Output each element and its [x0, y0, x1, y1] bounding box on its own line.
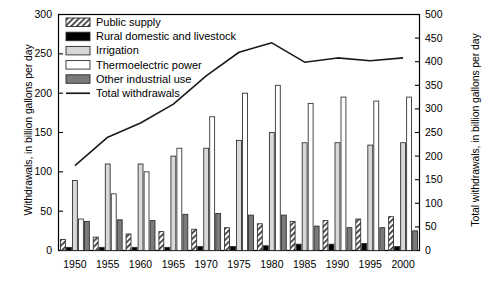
y-tick-left-200: 200 — [18, 88, 52, 99]
y-tick-left-250: 250 — [18, 48, 52, 59]
y-tick-left-100: 100 — [18, 166, 52, 177]
bar-1995-thermoelectric-power — [374, 101, 379, 250]
y-tick-left-300: 300 — [18, 9, 52, 20]
bar-1990-other-industrial-use — [347, 228, 352, 251]
bar-1980-other-industrial-use — [281, 215, 286, 250]
y-tick-left-0: 0 — [18, 245, 52, 256]
bar-1975-public-supply — [225, 228, 230, 251]
bar-1965-thermoelectric-power — [177, 148, 182, 250]
bar-1990-thermoelectric-power — [341, 97, 346, 250]
bar-1980-irrigation — [269, 133, 274, 251]
legend-label-rural-domestic-and-livestock: Rural domestic and livestock — [96, 31, 236, 42]
bar-1975-irrigation — [237, 140, 242, 250]
bar-1960-other-industrial-use — [150, 221, 155, 251]
legend-label-thermoelectric-power: Thermoelectric power — [96, 60, 202, 71]
bar-2000-other-industrial-use — [413, 231, 418, 251]
y-tick-left-50: 50 — [18, 206, 52, 217]
bar-1995-irrigation — [368, 145, 373, 250]
bar-1955-irrigation — [105, 164, 110, 251]
bar-1980-thermoelectric-power — [275, 85, 280, 250]
bar-1960-rural-domestic-and-livestock — [132, 247, 137, 250]
bar-1950-public-supply — [60, 239, 65, 250]
right-axis-ticks — [415, 15, 420, 251]
bar-1950-other-industrial-use — [84, 221, 89, 250]
bar-2000-public-supply — [389, 217, 394, 251]
legend-label-public-supply: Public supply — [96, 17, 161, 28]
bars-layer — [60, 85, 417, 250]
bar-1950-irrigation — [72, 180, 77, 250]
y-tick-right-400: 400 — [425, 56, 459, 67]
bar-1975-other-industrial-use — [249, 215, 254, 250]
y-tick-right-0: 0 — [425, 245, 459, 256]
bar-1980-rural-domestic-and-livestock — [263, 246, 268, 251]
y-tick-right-500: 500 — [425, 9, 459, 20]
x-tick-2000: 2000 — [383, 259, 423, 270]
legend-swatch-irrigation — [66, 46, 90, 55]
bar-1965-rural-domestic-and-livestock — [165, 247, 170, 250]
legend-label-irrigation: Irrigation — [96, 45, 139, 56]
bar-1955-thermoelectric-power — [111, 194, 116, 251]
bar-2000-irrigation — [401, 143, 406, 251]
legend-swatches — [66, 18, 90, 93]
bar-1975-rural-domestic-and-livestock — [231, 247, 236, 251]
bar-1950-thermoelectric-power — [78, 219, 83, 250]
y-tick-right-300: 300 — [425, 103, 459, 114]
bar-1975-thermoelectric-power — [243, 93, 248, 250]
y-tick-right-350: 350 — [425, 80, 459, 91]
bar-1970-public-supply — [192, 229, 197, 250]
bar-1970-irrigation — [204, 148, 209, 250]
bar-1955-other-industrial-use — [117, 220, 122, 251]
bar-1985-thermoelectric-power — [308, 103, 313, 250]
y-tick-right-250: 250 — [425, 127, 459, 138]
legend-label-total-withdrawals: Total withdrawals — [96, 88, 180, 99]
left-axis-ticks — [59, 15, 64, 251]
bar-1950-rural-domestic-and-livestock — [66, 247, 71, 250]
bar-1985-other-industrial-use — [314, 226, 319, 250]
bar-1965-other-industrial-use — [183, 214, 188, 250]
bar-1990-public-supply — [323, 221, 328, 251]
legend-swatch-thermoelectric-power — [66, 61, 90, 70]
y-axis-label-right: Total withdrawals, in billion gallons pe… — [469, 10, 481, 250]
legend-swatch-public-supply — [66, 18, 90, 27]
bar-1995-rural-domestic-and-livestock — [362, 243, 367, 250]
y-tick-right-50: 50 — [425, 221, 459, 232]
bar-1970-other-industrial-use — [216, 214, 221, 251]
bar-1960-thermoelectric-power — [144, 172, 149, 251]
bar-1960-irrigation — [138, 164, 143, 251]
y-tick-right-450: 450 — [425, 33, 459, 44]
bar-1955-public-supply — [93, 237, 98, 250]
bar-1980-public-supply — [257, 224, 262, 251]
bar-1965-public-supply — [159, 232, 164, 251]
bar-1985-irrigation — [302, 143, 307, 251]
bar-1970-thermoelectric-power — [210, 117, 215, 251]
bar-1995-public-supply — [356, 219, 361, 250]
legend-swatch-rural-domestic-and-livestock — [66, 32, 90, 41]
legend-label-other-industrial-use: Other industrial use — [96, 74, 191, 85]
bar-2000-rural-domestic-and-livestock — [395, 247, 400, 251]
bar-1990-irrigation — [335, 143, 340, 251]
chart-canvas — [0, 0, 497, 285]
y-tick-right-150: 150 — [425, 174, 459, 185]
y-tick-left-150: 150 — [18, 127, 52, 138]
bar-1985-rural-domestic-and-livestock — [296, 244, 301, 250]
bar-2000-thermoelectric-power — [407, 97, 412, 250]
bar-1965-irrigation — [171, 156, 176, 250]
bar-1970-rural-domestic-and-livestock — [198, 247, 203, 251]
y-tick-right-100: 100 — [425, 198, 459, 209]
chart-container: Withdrawals, in billion gallons per day … — [0, 0, 497, 285]
y-tick-right-200: 200 — [425, 151, 459, 162]
bar-1960-public-supply — [126, 234, 131, 251]
bar-1995-other-industrial-use — [380, 228, 385, 251]
legend-swatch-other-industrial-use — [66, 75, 90, 84]
bar-1955-rural-domestic-and-livestock — [99, 247, 104, 250]
bar-1990-rural-domestic-and-livestock — [329, 244, 334, 250]
bar-1985-public-supply — [290, 221, 295, 250]
